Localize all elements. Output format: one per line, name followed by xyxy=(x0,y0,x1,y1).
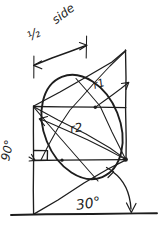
right-vertical-line xyxy=(126,50,127,160)
vertex-node-right xyxy=(123,157,128,162)
sketch-canvas: ½ side r1 r2 90° 30° xyxy=(0,0,164,233)
baseline xyxy=(11,213,157,215)
frame-top-edge xyxy=(34,51,126,107)
angle-30-arc xyxy=(113,172,131,209)
label-r2: r2 xyxy=(69,121,83,135)
label-angle-30: 30° xyxy=(75,194,102,212)
vertex-node-lower-mid xyxy=(60,159,63,162)
half-side-arrowhead-left xyxy=(34,61,42,69)
vertex-node-center xyxy=(94,106,97,109)
frame-upper-chord xyxy=(34,107,126,108)
half-side-dimension-line xyxy=(35,46,87,66)
